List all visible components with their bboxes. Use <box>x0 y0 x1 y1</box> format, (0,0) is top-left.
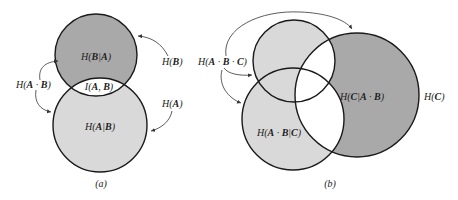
diagram-a: H(B|A) I(A, B) H(A|B) H(A · B) H(B) H(A)… <box>15 14 183 190</box>
arrow-h-a <box>151 111 172 131</box>
label-h-ab: H(A · B) <box>15 79 51 91</box>
label-h-c: H(C) <box>423 91 445 103</box>
label-i-a-b: I(A, B) <box>84 81 114 93</box>
diagram-b: H(C|A · B) H(A · B|C) H(A · B · C) H(C) … <box>197 12 445 190</box>
label-h-c-given-ab: H(C|A · B) <box>339 91 385 103</box>
entropy-venn-figure: H(B|A) I(A, B) H(A|B) H(A · B) H(B) H(A)… <box>0 0 458 200</box>
label-h-abc: H(A · B · C) <box>197 56 248 68</box>
arrow-h-ab-to-upper <box>40 61 58 80</box>
label-h-a: H(A) <box>161 98 183 110</box>
label-h-b-given-a: H(B|A) <box>80 51 112 63</box>
caption-a: (a) <box>95 178 107 190</box>
label-h-ab-given-c: H(A · B|C) <box>256 127 302 139</box>
arrow-h-b <box>138 36 168 56</box>
label-h-b: H(B) <box>161 56 183 68</box>
caption-b: (b) <box>324 178 336 190</box>
label-h-a-given-b: H(A|B) <box>84 121 116 133</box>
arrow-h-ab-to-lower <box>36 90 51 112</box>
arrow-h-abc-to-top <box>224 68 252 75</box>
